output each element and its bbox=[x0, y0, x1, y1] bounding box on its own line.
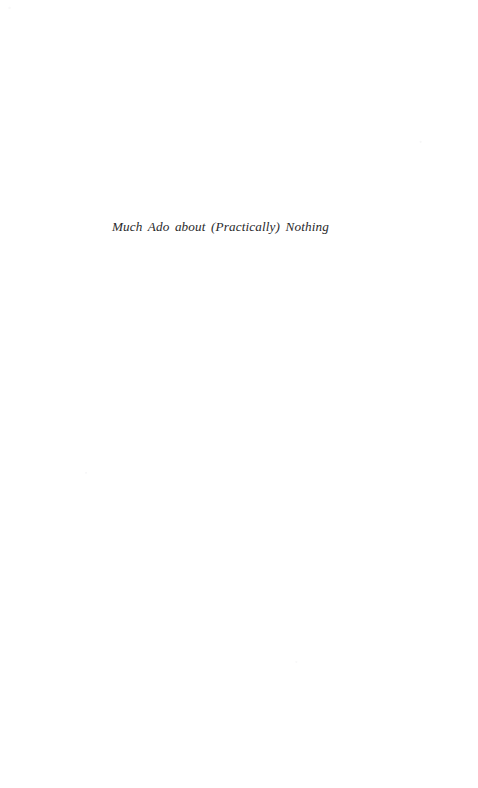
half-title-text: Much Ado about (Practically) Nothing bbox=[112, 219, 329, 235]
document-page: Much Ado about (Practically) Nothing bbox=[0, 0, 478, 788]
paper-grain-texture bbox=[0, 0, 478, 788]
